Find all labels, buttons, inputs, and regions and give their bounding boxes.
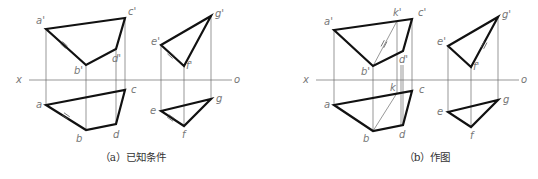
point-label: d': [399, 54, 408, 65]
point-label: f: [470, 130, 475, 141]
point-label: e: [437, 106, 443, 117]
point-label: e': [437, 36, 446, 47]
point-label: c': [418, 7, 426, 18]
point-label: b': [74, 65, 83, 76]
point-label: g': [215, 8, 224, 19]
line-bk-top: [373, 93, 397, 131]
point-label: f: [182, 129, 187, 140]
point-label: c': [128, 6, 136, 17]
triangle-efg-top: [161, 99, 211, 126]
figure-b-construction: xoa'k'c'd'b'kcabde'g'f'gef: [302, 7, 527, 144]
axis-label-x: x: [15, 74, 22, 85]
point-label: c: [419, 84, 425, 95]
axis-label-x: x: [302, 74, 309, 85]
point-label: k': [393, 7, 402, 18]
point-label: b: [76, 133, 82, 144]
figure-a-given-conditions: xoa'c'd'b'cabde'g'f'gef: [15, 6, 240, 144]
point-label: d': [112, 53, 121, 64]
triangle-efg-top: [448, 100, 498, 127]
caption-b: （b）作图: [404, 151, 451, 163]
point-label: f': [473, 61, 479, 72]
axis-label-o: o: [521, 74, 527, 85]
point-label: k: [390, 82, 397, 93]
caption-a: （a）已知条件: [100, 151, 166, 163]
point-label: b': [361, 66, 370, 77]
point-label: e: [150, 105, 156, 116]
axis-label-o: o: [234, 74, 240, 85]
point-label: e': [151, 36, 160, 47]
point-label: f': [186, 60, 192, 71]
point-label: g': [502, 9, 511, 20]
point-label: c: [131, 84, 137, 95]
triangle-efg-front: [161, 16, 211, 66]
point-label: d: [113, 129, 120, 140]
point-label: g: [503, 94, 509, 105]
point-label: g: [216, 93, 222, 104]
point-label: a': [36, 15, 45, 26]
point-label: d: [399, 129, 406, 140]
point-label: a: [324, 99, 330, 110]
orthographic-projection-drawing: xoa'c'd'b'cabde'g'f'gef xoa'k'c'd'b'kcab…: [0, 0, 538, 179]
point-label: a: [36, 99, 42, 110]
point-label: a': [324, 16, 333, 27]
point-label: b: [363, 133, 369, 144]
plane-abcd-top: [46, 90, 125, 130]
triangle-efg-front: [448, 17, 498, 67]
